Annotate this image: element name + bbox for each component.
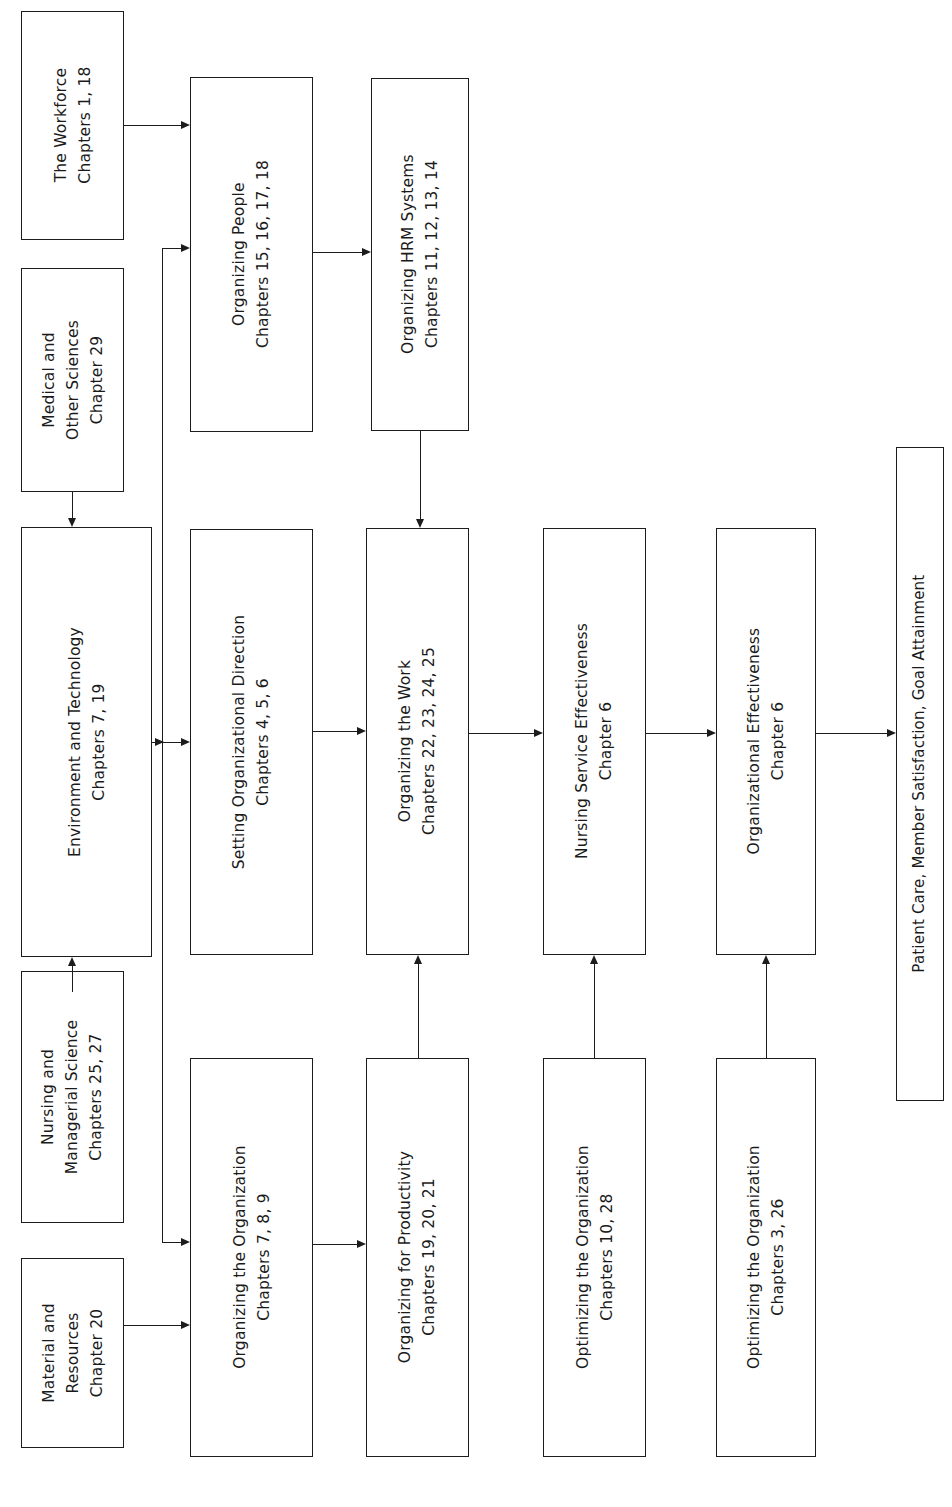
edge-orgorg-orgproductivity bbox=[313, 1244, 358, 1245]
node-org-work-label: Organizing the Work Chapters 22, 23, 24,… bbox=[393, 647, 441, 835]
node-optimizing-10-28: Optimizing the Organization Chapters 10,… bbox=[543, 1058, 646, 1457]
node-nursing-svc-eff-label: Nursing Service Effectiveness Chapter 6 bbox=[570, 623, 618, 859]
node-nursing-mgmt-sci: Nursing and Managerial Science Chapters … bbox=[21, 971, 124, 1223]
node-org-org: Organizing the Organization Chapters 7, … bbox=[190, 1058, 313, 1457]
node-workforce: The Workforce Chapters 1, 18 bbox=[21, 11, 124, 240]
edge-optimizing1028-nursingsvceff-arrowhead bbox=[590, 955, 598, 964]
edge-workforce-orgpeople-arrowhead bbox=[181, 121, 190, 129]
edge-environment-orgpeople-arrowhead bbox=[181, 244, 190, 252]
edge-orgpeople-orghrm-arrowhead bbox=[362, 248, 371, 256]
edge-medical-environment-arrowhead bbox=[68, 518, 76, 527]
edge-orgproductivity-orgwork-arrowhead bbox=[414, 955, 422, 964]
node-workforce-label: The Workforce Chapters 1, 18 bbox=[48, 67, 96, 184]
node-setting-dir-label: Setting Organizational Direction Chapter… bbox=[227, 615, 275, 870]
node-nursing-svc-eff: Nursing Service Effectiveness Chapter 6 bbox=[543, 528, 646, 955]
edge-nursingsci-environment bbox=[72, 966, 73, 992]
node-material-res: Material and Resources Chapter 20 bbox=[21, 1258, 124, 1448]
node-org-people-label: Organizing People Chapters 15, 16, 17, 1… bbox=[227, 160, 275, 348]
edge-medical-environment bbox=[72, 492, 73, 518]
edge-environment-trunk bbox=[162, 248, 163, 1243]
node-org-org-label: Organizing the Organization Chapters 7, … bbox=[227, 1146, 275, 1370]
node-setting-dir: Setting Organizational Direction Chapter… bbox=[190, 529, 313, 955]
node-optimizing-3-26: Optimizing the Organization Chapters 3, … bbox=[716, 1058, 816, 1457]
node-org-work: Organizing the Work Chapters 22, 23, 24,… bbox=[366, 528, 469, 955]
edge-workforce-orgpeople bbox=[124, 125, 181, 126]
node-environment-tech-label: Environment and Technology Chapters 7, 1… bbox=[62, 627, 110, 857]
node-org-productivity: Organizing for Productivity Chapters 19,… bbox=[366, 1058, 469, 1457]
edge-settingdir-orgwork bbox=[313, 731, 358, 732]
edge-environment-settingdir-arrowhead-mid bbox=[155, 738, 164, 746]
node-environment-tech: Environment and Technology Chapters 7, 1… bbox=[21, 527, 152, 957]
diagram-canvas: The Workforce Chapters 1, 18 Medical and… bbox=[0, 0, 952, 1507]
node-org-eff: Organizational Effectiveness Chapter 6 bbox=[716, 528, 816, 955]
edge-optimizing326-orgeff-arrowhead bbox=[762, 955, 770, 964]
edge-environment-settingdir-arrowhead bbox=[181, 738, 190, 746]
edge-material-orgorg-arrowhead bbox=[181, 1321, 190, 1329]
edge-orghrm-orgwork-arrowhead bbox=[416, 519, 424, 528]
edge-optimizing326-orgeff bbox=[766, 964, 767, 1058]
edge-orgwork-nursingsvceff-arrowhead bbox=[534, 729, 543, 737]
edge-orgeff-outcomes bbox=[816, 733, 887, 734]
edge-orgorg-orgproductivity-arrowhead bbox=[357, 1240, 366, 1248]
node-outcomes: Patient Care, Member Satisfaction, Goal … bbox=[896, 447, 944, 1101]
edge-orgeff-outcomes-arrowhead bbox=[887, 729, 896, 737]
node-medical-sciences-label: Medical and Other Sciences Chapter 29 bbox=[36, 320, 108, 440]
node-optimizing-10-28-label: Optimizing the Organization Chapters 10,… bbox=[570, 1146, 618, 1370]
edge-environment-orgpeople bbox=[162, 248, 181, 249]
edge-optimizing1028-nursingsvceff bbox=[594, 964, 595, 1058]
node-org-eff-label: Organizational Effectiveness Chapter 6 bbox=[742, 628, 790, 855]
node-outcomes-label: Patient Care, Member Satisfaction, Goal … bbox=[908, 575, 931, 973]
node-optimizing-3-26-label: Optimizing the Organization Chapters 3, … bbox=[742, 1146, 790, 1370]
node-org-people: Organizing People Chapters 15, 16, 17, 1… bbox=[190, 77, 313, 432]
node-nursing-mgmt-sci-label: Nursing and Managerial Science Chapters … bbox=[36, 1020, 108, 1175]
edge-orgwork-nursingsvceff bbox=[469, 733, 534, 734]
edge-material-orgorg bbox=[124, 1325, 181, 1326]
edge-settingdir-orgwork-arrowhead bbox=[357, 727, 366, 735]
edge-nursingsci-environment-arrowhead bbox=[68, 957, 76, 966]
edge-nursingsvceff-orgeff-arrowhead bbox=[707, 729, 716, 737]
edge-nursingsvceff-orgeff bbox=[646, 733, 707, 734]
node-material-res-label: Material and Resources Chapter 20 bbox=[36, 1303, 108, 1402]
edge-environment-orgorg-arrowhead bbox=[181, 1238, 190, 1246]
edge-orgpeople-orghrm bbox=[313, 252, 362, 253]
edge-orgproductivity-orgwork bbox=[418, 964, 419, 1058]
node-org-hrm-label: Organizing HRM Systems Chapters 11, 12, … bbox=[396, 155, 444, 355]
node-org-productivity-label: Organizing for Productivity Chapters 19,… bbox=[393, 1151, 441, 1363]
edge-environment-orgorg bbox=[162, 1242, 181, 1243]
edge-orghrm-orgwork bbox=[420, 431, 421, 519]
node-medical-sciences: Medical and Other Sciences Chapter 29 bbox=[21, 268, 124, 492]
node-org-hrm: Organizing HRM Systems Chapters 11, 12, … bbox=[371, 78, 469, 431]
